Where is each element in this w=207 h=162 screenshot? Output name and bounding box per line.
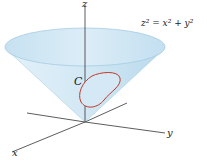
x-axis-label: x	[12, 148, 18, 158]
equation-label: z² = x² + y²	[141, 19, 193, 28]
x-axis	[12, 122, 85, 152]
y-axis	[85, 122, 165, 133]
z-axis-label: z	[82, 0, 87, 9]
curve-label: C	[74, 76, 82, 87]
y-axis-label: y	[167, 128, 173, 138]
